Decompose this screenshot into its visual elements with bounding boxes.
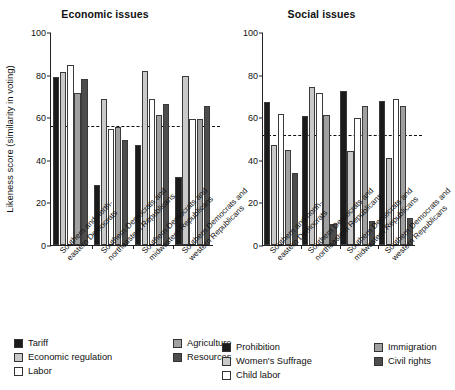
legend-label: Child labor <box>236 370 280 380</box>
legend-item: Labor <box>14 366 52 376</box>
legend-swatch-icon <box>374 357 383 366</box>
legend-swatch-icon <box>173 353 182 362</box>
x-axis-tick-mark <box>173 245 174 249</box>
legend-row: Labor <box>14 366 214 380</box>
legend-item: Economic regulation <box>14 352 112 362</box>
legend-swatch-icon <box>14 353 23 362</box>
legend-item: Women's Suffrage <box>222 356 312 366</box>
bar <box>60 72 66 245</box>
y-axis-tick-mark <box>259 246 263 247</box>
legend-label: Women's Suffrage <box>236 356 312 366</box>
bar <box>156 115 162 245</box>
legend-label: Economic regulation <box>28 352 112 362</box>
bar <box>278 114 284 245</box>
bar <box>53 77 59 245</box>
x-axis-tick-mark <box>378 245 379 249</box>
bar-group <box>51 33 92 245</box>
panel-title: Social issues <box>220 8 423 20</box>
legend-item: Civil rights <box>374 356 431 366</box>
y-axis-label: Likeness score (similarity in voting) <box>2 33 16 245</box>
panel-title: Economic issues <box>0 8 216 20</box>
bar <box>264 102 270 245</box>
legend-label: Prohibition <box>236 342 280 352</box>
legend-item: Immigration <box>374 342 437 352</box>
legend-swatch-icon <box>14 339 23 348</box>
bar-group <box>263 33 301 245</box>
legend-label: Civil rights <box>388 356 431 366</box>
legend-row: Economic regulationResources <box>14 352 214 366</box>
legend-label: Labor <box>28 366 52 376</box>
bar <box>67 65 73 245</box>
legend-row: Women's SuffrageCivil rights <box>222 356 422 370</box>
legend-swatch-icon <box>374 343 383 352</box>
x-axis-tick-mark <box>340 245 341 249</box>
legend-swatch-icon <box>173 339 182 348</box>
legend-row: TariffAgriculture <box>14 338 214 352</box>
legend-swatch-icon <box>222 357 231 366</box>
legend-swatch-icon <box>222 371 231 380</box>
legend-swatch-icon <box>14 367 23 376</box>
legend-item: Prohibition <box>222 342 280 352</box>
legend-label: Immigration <box>388 342 437 352</box>
x-axis-tick-mark <box>92 245 93 249</box>
legend-economic-issues: TariffAgricultureEconomic regulationReso… <box>14 338 214 380</box>
bar <box>108 129 114 245</box>
panel-economic-issues: Economic issues Likeness score (similari… <box>0 0 222 330</box>
legend-row: Child labor <box>222 370 422 384</box>
bar <box>189 119 195 245</box>
bar <box>74 93 80 245</box>
legend-social-issues: ProhibitionImmigrationWomen's SuffrageCi… <box>222 342 422 384</box>
legend-item: Child labor <box>222 370 280 380</box>
x-axis-tick-mark <box>301 245 302 249</box>
legend-swatch-icon <box>222 343 231 352</box>
y-axis-tick-mark <box>47 246 51 247</box>
bar <box>400 106 406 246</box>
x-axis-tick-mark <box>133 245 134 249</box>
bar <box>271 145 277 245</box>
legend-item: Tariff <box>14 338 48 348</box>
legend-row: ProhibitionImmigration <box>222 342 422 356</box>
bar <box>362 106 368 246</box>
legend-label: Tariff <box>28 338 48 348</box>
panel-social-issues: Social issues 020406080100 Southern and … <box>222 0 425 330</box>
